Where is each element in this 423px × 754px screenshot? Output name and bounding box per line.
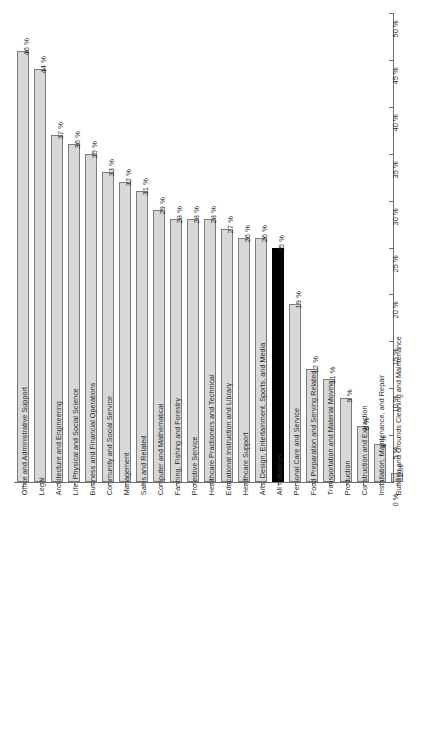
value-axis-tick	[389, 201, 393, 202]
category-label: Business and Financial Operations	[89, 382, 96, 495]
category-tick	[397, 483, 398, 486]
category-tick	[278, 483, 279, 486]
category-tick	[261, 483, 262, 486]
plot-area: 46 %Office and Administrative Support44 …	[0, 0, 423, 754]
bar-value-label: 26 %	[244, 225, 252, 243]
bar-value-label: 27 %	[227, 216, 235, 234]
category-tick	[312, 483, 313, 486]
category-label: Management	[123, 453, 130, 495]
category-tick	[295, 483, 296, 486]
category-tick	[380, 483, 381, 486]
category-tick	[23, 483, 24, 486]
category-tick	[142, 483, 143, 486]
category-tick	[176, 483, 177, 486]
bar-value-label: 28 %	[210, 206, 218, 224]
value-axis-tick-label: 30 %	[392, 208, 400, 225]
category-axis-line	[14, 482, 392, 483]
bar-value-label: 32 %	[125, 169, 133, 187]
bar-value-label: 33 %	[108, 159, 116, 177]
value-axis-tick	[389, 294, 393, 295]
bar-value-label: 28 %	[193, 206, 201, 224]
category-tick	[125, 483, 126, 486]
category-tick	[329, 483, 330, 486]
category-label: Office and Administrative Support	[21, 387, 28, 495]
bar-value-label: 46 %	[23, 38, 31, 56]
bar-value-label: 25 %	[278, 235, 286, 253]
value-axis-tick-label: 25 %	[392, 255, 400, 272]
value-axis-tick	[389, 107, 393, 108]
value-axis-tick	[389, 435, 393, 436]
bar	[34, 69, 46, 482]
bar-value-label: 36 %	[74, 131, 82, 149]
category-label: Protective Service	[191, 436, 198, 495]
bar-value-label: 44 %	[40, 56, 48, 74]
category-label: Legal	[38, 477, 45, 495]
category-tick	[346, 483, 347, 486]
category-tick	[40, 483, 41, 486]
value-axis-tick-label: 5 %	[392, 447, 400, 460]
bar	[119, 182, 131, 482]
category-tick	[193, 483, 194, 486]
value-axis-tick	[389, 60, 393, 61]
value-axis-tick-label: 40 %	[392, 114, 400, 131]
value-axis-tick-label: 35 %	[392, 161, 400, 178]
bar-value-label: 35 %	[91, 141, 99, 159]
category-tick	[57, 483, 58, 486]
bar-value-label: 31 %	[142, 178, 150, 196]
category-label: Installation, Maintenance, and Repair	[378, 375, 385, 496]
category-label: Food Preparation and Serving Related	[310, 371, 317, 495]
value-axis-tick	[389, 154, 393, 155]
value-axis-tick	[389, 388, 393, 389]
category-label: Healthcare Support	[242, 432, 249, 495]
bar-value-label: 9 %	[346, 389, 354, 402]
category-tick	[244, 483, 245, 486]
category-tick	[210, 483, 211, 486]
value-axis-tick	[389, 341, 393, 342]
category-label: Transportation and Material Moving	[327, 381, 334, 496]
category-tick	[91, 483, 92, 486]
value-axis-tick-label: 10 %	[392, 396, 400, 413]
category-label: All Industries	[276, 453, 283, 495]
bar-value-label: 37 %	[57, 122, 65, 140]
category-label: Life, Physical and Social Science	[72, 388, 79, 495]
value-axis-tick-label: 50 %	[392, 20, 400, 37]
value-axis-tick-label: 45 %	[392, 67, 400, 84]
category-label: Farming, Fishing and Forestry	[174, 398, 181, 495]
value-axis-tick-label: 20 %	[392, 302, 400, 319]
value-axis-tick-label: 15 %	[392, 349, 400, 366]
category-tick	[108, 483, 109, 486]
value-axis-tick-label: 0 %	[392, 494, 400, 507]
value-axis-tick	[389, 13, 393, 14]
bar-value-label: 28 %	[176, 206, 184, 224]
category-label: Arts, Design, Entertainment, Sports, and…	[259, 343, 266, 496]
category-label: Healthcare Practioners and Technical	[208, 374, 215, 495]
category-tick	[74, 483, 75, 486]
bar	[272, 248, 284, 483]
bar-chart: 46 %Office and Administrative Support44 …	[0, 0, 423, 754]
bar-value-label: 29 %	[159, 197, 167, 215]
category-label: Educational Instruction and Library	[225, 383, 232, 495]
bar-value-label: 26 %	[261, 225, 269, 243]
category-label: Sales and Related	[140, 436, 147, 496]
category-tick	[363, 483, 364, 486]
category-tick	[159, 483, 160, 486]
category-label: Community and Social Service	[106, 396, 113, 495]
category-tick	[227, 483, 228, 486]
bar-value-label: 19 %	[295, 291, 303, 309]
category-label: Production	[344, 460, 351, 495]
value-axis-tick	[389, 248, 393, 249]
